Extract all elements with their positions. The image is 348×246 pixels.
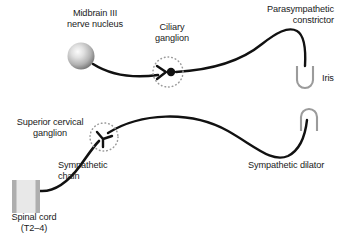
label-iris: Iris <box>322 73 348 84</box>
label-superior-cervical-ganglion: Superior cervical ganglion <box>4 117 96 139</box>
postganglionic-sympathetic-fiber <box>108 117 307 158</box>
label-spinal-cord: Spinal cord (T2–4) <box>2 212 66 234</box>
spinal-cord-block-right-edge <box>36 180 41 213</box>
label-parasympathetic-constrictor: Parasympathetic constrictor <box>222 4 334 26</box>
label-midbrain-nucleus: Midbrain III nerve nucleus <box>52 8 138 30</box>
superior-cervical-ganglion-synapse-fork <box>97 132 112 147</box>
ciliary-ganglion-synapse-dot <box>167 68 175 76</box>
preganglionic-parasympathetic-fiber <box>93 64 158 76</box>
iris-dilator-inverted-u-shape <box>301 109 317 131</box>
label-sympathetic-chain: Sympathetic chain <box>58 160 128 182</box>
spinal-cord-block-left-edge <box>12 180 17 213</box>
iris-constrictor-u-shape <box>297 66 313 88</box>
autonomic-iris-innervation-diagram: Midbrain III nerve nucleus Ciliary gangl… <box>0 0 348 246</box>
label-ciliary-ganglion: Ciliary ganglion <box>140 22 204 44</box>
ciliary-ganglion-synapse-fork <box>157 66 166 79</box>
midbrain-nucleus-sphere <box>68 43 95 70</box>
label-sympathetic-dilator: Sympathetic dilator <box>248 160 346 171</box>
